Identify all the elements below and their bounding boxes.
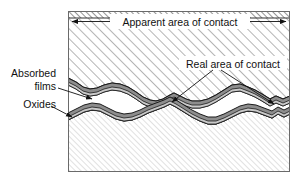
oxides-label: Oxides (23, 98, 56, 110)
contact-surfaces-diagram: Apparent area of contact Real area of co… (0, 0, 303, 183)
absorbed-films-label-line2: films (34, 80, 56, 92)
lower-body-solid (68, 104, 290, 172)
absorbed-films-label-line1: Absorbed (11, 67, 56, 79)
real-area-label: Real area of contact (186, 58, 280, 70)
diagram-body (68, 11, 290, 172)
apparent-area-label: Apparent area of contact (123, 16, 238, 28)
diagram-canvas: Apparent area of contact Real area of co… (0, 0, 303, 183)
